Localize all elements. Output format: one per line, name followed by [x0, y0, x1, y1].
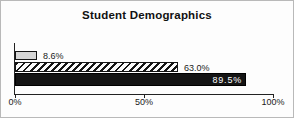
data-label: 8.6%: [43, 52, 64, 61]
data-label: 63.0%: [184, 64, 210, 73]
chart-title: Student Demographics: [1, 9, 293, 21]
data-label: 89.5%: [212, 76, 242, 85]
chart-frame: Student Demographics 8.6%63.0%89.5% 0%50…: [0, 0, 294, 118]
x-tick-label: 100%: [261, 98, 284, 107]
x-tick-label: 0%: [8, 98, 21, 107]
x-tick-label: 50%: [135, 98, 153, 107]
bar-hatched: [15, 62, 178, 72]
bar-gray: [15, 51, 37, 60]
